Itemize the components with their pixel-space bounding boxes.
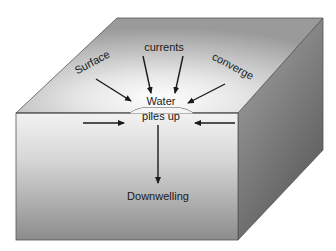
label-water: Water: [147, 95, 176, 107]
label-currents: currents: [144, 41, 184, 53]
block-front-face: [16, 113, 238, 240]
label-piles-up: piles up: [142, 110, 180, 122]
diagram-canvas: Surface currents converge Water piles up…: [0, 0, 336, 251]
label-downwelling: Downwelling: [127, 190, 189, 202]
downwelling-diagram: Surface currents converge Water piles up…: [0, 0, 336, 251]
